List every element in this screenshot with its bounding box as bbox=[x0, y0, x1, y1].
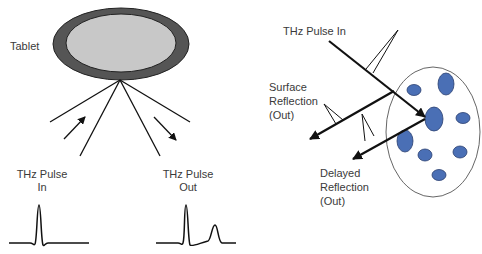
pulse-in-waveform bbox=[9, 205, 89, 246]
delayed-reflection-arrow bbox=[353, 119, 425, 159]
pulse-out-label: THz Pulse Out bbox=[157, 168, 219, 194]
pulse-out-waveform bbox=[156, 205, 236, 246]
delayed-reflection-line2: Reflection bbox=[320, 180, 369, 194]
surface-reflection-line3: (Out) bbox=[269, 108, 318, 122]
delayed-reflection-label: Delayed Reflection (Out) bbox=[320, 166, 369, 208]
diagram-graphics bbox=[0, 0, 482, 254]
arrow-out-icon bbox=[154, 117, 176, 140]
incoming-beam-arrow bbox=[329, 41, 425, 117]
pulse-in-label-line2: In bbox=[12, 181, 72, 194]
pulse-out-label-line2: Out bbox=[157, 181, 219, 194]
thz-pulse-in-label: THz Pulse In bbox=[283, 25, 346, 38]
tablet-shape bbox=[53, 8, 189, 80]
pulse-in-label-line1: THz Pulse bbox=[12, 168, 72, 181]
delayed-reflection-line1: Delayed bbox=[320, 166, 369, 180]
pulse-in-label: THz Pulse In bbox=[12, 168, 72, 194]
surface-reflection-line1: Surface bbox=[269, 80, 318, 94]
surface-reflection-arrow bbox=[310, 91, 394, 139]
beam-lines bbox=[50, 80, 190, 156]
arrow-in-icon bbox=[64, 117, 85, 139]
delayed-reflection-line3: (Out) bbox=[320, 194, 369, 208]
surface-reflection-label: Surface Reflection (Out) bbox=[269, 80, 318, 122]
surface-reflection-line2: Reflection bbox=[269, 94, 318, 108]
particles bbox=[397, 73, 470, 181]
thz-reflection-diagram: Tablet THz Pulse In THz Pulse Out THz Pu… bbox=[0, 0, 482, 254]
tablet-label: Tablet bbox=[10, 40, 39, 53]
pulse-out-label-line1: THz Pulse bbox=[157, 168, 219, 181]
